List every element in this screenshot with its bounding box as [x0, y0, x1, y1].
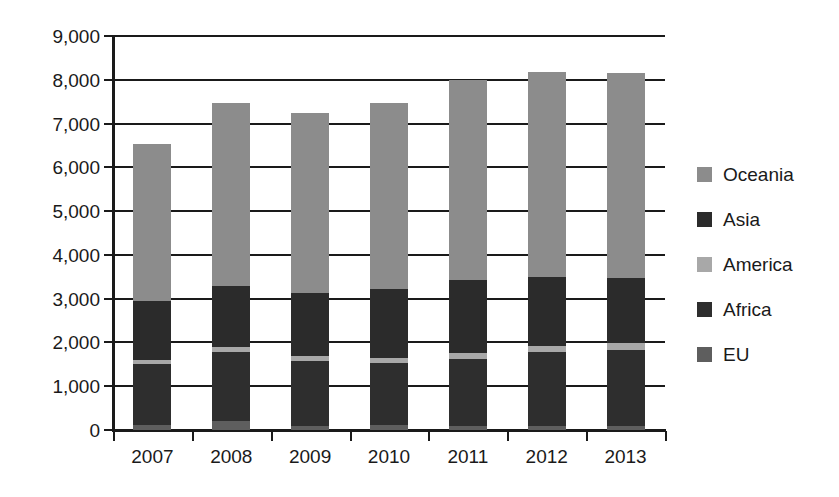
bar-segment-africa[interactable] — [370, 363, 408, 426]
bar-segment-africa[interactable] — [607, 350, 645, 426]
bar-segment-asia[interactable] — [528, 277, 566, 346]
legend-item-asia[interactable]: Asia — [697, 197, 837, 242]
legend-item-label: EU — [723, 345, 749, 364]
bar-segment-africa[interactable] — [133, 364, 171, 424]
x-axis-tick-mark — [271, 431, 273, 441]
x-axis-tick-label: 2011 — [428, 447, 507, 466]
bar-segment-africa[interactable] — [291, 361, 329, 426]
legend-swatch-oceania — [697, 167, 712, 182]
legend-swatch-africa — [697, 302, 712, 317]
y-axis-tick-labels: 01,0002,0003,0004,0005,0006,0007,0008,00… — [0, 0, 100, 497]
bar-segment-oceania[interactable] — [212, 103, 250, 286]
bar-group[interactable] — [528, 72, 566, 430]
bar-segment-america[interactable] — [291, 356, 329, 361]
bar-segment-america[interactable] — [133, 360, 171, 365]
legend-swatch-asia — [697, 212, 712, 227]
bar-segment-oceania[interactable] — [528, 72, 566, 277]
legend-item-label: America — [723, 255, 793, 274]
bar-segment-oceania[interactable] — [607, 73, 645, 277]
bar-segment-asia[interactable] — [607, 278, 645, 344]
x-axis-tick-label: 2007 — [113, 447, 192, 466]
y-axis-tick-label: 3,000 — [4, 289, 100, 308]
bar-segment-oceania[interactable] — [370, 103, 408, 289]
y-axis-tick-label: 2,000 — [4, 333, 100, 352]
bar-segment-asia[interactable] — [133, 301, 171, 360]
legend-swatch-eu — [697, 347, 712, 362]
legend-item-africa[interactable]: Africa — [697, 287, 837, 332]
y-axis-tick-label: 7,000 — [4, 114, 100, 133]
x-axis-tick-label: 2010 — [350, 447, 429, 466]
y-axis-tick-label: 4,000 — [4, 245, 100, 264]
bar-segment-eu[interactable] — [528, 426, 566, 430]
bar-segment-america[interactable] — [449, 353, 487, 360]
y-axis-tick-label: 0 — [4, 421, 100, 440]
gridline — [113, 79, 665, 81]
legend-swatch-america — [697, 257, 712, 272]
y-axis-tick-label: 6,000 — [4, 158, 100, 177]
y-axis-tick-label: 1,000 — [4, 377, 100, 396]
bar-segment-eu[interactable] — [291, 426, 329, 430]
x-axis-tick-label: 2009 — [271, 447, 350, 466]
y-axis-tick-label: 5,000 — [4, 202, 100, 221]
x-axis-tick-mark — [665, 431, 667, 441]
x-axis-tick-label: 2013 — [586, 447, 665, 466]
y-axis-tick-label: 8,000 — [4, 70, 100, 89]
bar-segment-asia[interactable] — [449, 280, 487, 352]
bar-group[interactable] — [370, 103, 408, 430]
legend-item-label: Africa — [723, 300, 772, 319]
plot-area — [113, 36, 665, 430]
bar-group[interactable] — [607, 73, 645, 430]
legend-item-america[interactable]: America — [697, 242, 837, 287]
bar-group[interactable] — [449, 80, 487, 430]
x-axis-tick-mark — [350, 431, 352, 441]
legend-item-label: Asia — [723, 210, 760, 229]
x-axis-tick-label: 2008 — [192, 447, 271, 466]
bar-group[interactable] — [291, 113, 329, 430]
chart-legend: OceaniaAsiaAmericaAfricaEU — [697, 152, 837, 377]
bar-segment-america[interactable] — [212, 347, 250, 352]
bar-group[interactable] — [133, 144, 171, 430]
y-axis-tick-label: 9,000 — [4, 27, 100, 46]
legend-item-label: Oceania — [723, 165, 794, 184]
bar-segment-oceania[interactable] — [291, 113, 329, 293]
bar-group[interactable] — [212, 103, 250, 430]
legend-item-eu[interactable]: EU — [697, 332, 837, 377]
bar-segment-asia[interactable] — [291, 293, 329, 356]
bar-segment-eu[interactable] — [370, 425, 408, 430]
stacked-bar-chart: 01,0002,0003,0004,0005,0006,0007,0008,00… — [0, 0, 839, 497]
bar-segment-africa[interactable] — [212, 352, 250, 421]
bar-segment-eu[interactable] — [212, 421, 250, 430]
bar-segment-eu[interactable] — [449, 426, 487, 430]
bar-segment-asia[interactable] — [212, 286, 250, 347]
x-axis-tick-mark — [192, 431, 194, 441]
bar-segment-asia[interactable] — [370, 289, 408, 358]
bar-segment-eu[interactable] — [133, 425, 171, 430]
x-axis-tick-mark — [113, 431, 115, 441]
bar-segment-america[interactable] — [607, 343, 645, 350]
x-axis-tick-mark — [428, 431, 430, 441]
bar-segment-oceania[interactable] — [133, 144, 171, 301]
bar-segment-africa[interactable] — [449, 359, 487, 426]
bar-segment-oceania[interactable] — [449, 80, 487, 281]
x-axis-tick-label: 2012 — [507, 447, 586, 466]
bar-segment-america[interactable] — [528, 346, 566, 352]
x-axis-tick-mark — [507, 431, 509, 441]
bar-segment-america[interactable] — [370, 358, 408, 363]
bar-segment-africa[interactable] — [528, 352, 566, 426]
bar-segment-eu[interactable] — [607, 426, 645, 430]
x-axis-tick-mark — [586, 431, 588, 441]
legend-item-oceania[interactable]: Oceania — [697, 152, 837, 197]
gridline — [113, 35, 665, 37]
